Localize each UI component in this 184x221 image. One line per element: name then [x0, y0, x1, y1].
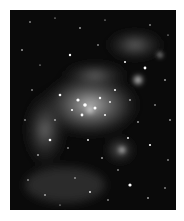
astronomical-photo	[10, 10, 176, 210]
nebula-starfield	[10, 10, 176, 210]
